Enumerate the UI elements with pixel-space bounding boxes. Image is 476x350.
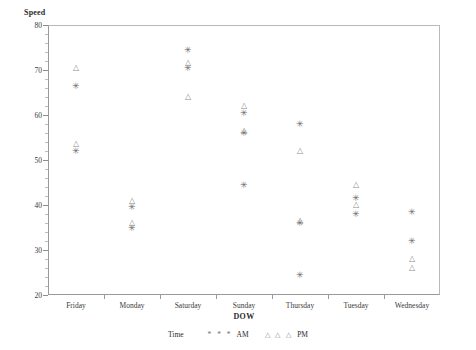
- x-axis-tick: [104, 295, 105, 299]
- y-axis-tick-minor: [45, 268, 48, 269]
- y-axis-tick-minor: [45, 106, 48, 107]
- data-point-pm: △: [409, 264, 415, 272]
- y-axis-tick-label: 80: [35, 21, 43, 30]
- x-axis-tick-label-sunday: Sunday: [233, 301, 256, 310]
- x-axis-tick: [328, 295, 329, 299]
- legend-entry-pm: △ △ △ PM: [265, 330, 308, 339]
- y-axis-tick-minor: [45, 34, 48, 35]
- y-axis-tick-major: [43, 205, 48, 206]
- x-axis-tick-label-saturday: Saturday: [175, 301, 202, 310]
- y-axis-tick-minor: [45, 43, 48, 44]
- legend-entry-am: * * * AM: [208, 330, 249, 339]
- data-point-pm: △: [185, 93, 191, 101]
- y-axis-tick-minor: [45, 286, 48, 287]
- y-axis-tick-label: 30: [35, 246, 43, 255]
- y-axis-tick-minor: [45, 133, 48, 134]
- y-axis-tick-minor: [45, 88, 48, 89]
- y-axis-tick-label: 40: [35, 201, 43, 210]
- plot-area: 20304050607080 FridayMondaySaturdaySunda…: [48, 25, 440, 295]
- x-axis-tick: [384, 295, 385, 299]
- y-axis-title: Speed: [24, 8, 45, 17]
- y-axis-tick-minor: [45, 151, 48, 152]
- x-axis-title: DOW: [48, 312, 440, 321]
- x-axis-tick: [272, 295, 273, 299]
- y-axis-tick-major: [43, 160, 48, 161]
- y-axis-tick-major: [43, 70, 48, 71]
- y-axis-tick-minor: [45, 187, 48, 188]
- x-axis-tick-label-tuesday: Tuesday: [343, 301, 368, 310]
- data-point-pm: △: [297, 217, 303, 225]
- y-axis-tick-label: 70: [35, 66, 43, 75]
- y-axis-tick-major: [43, 25, 48, 26]
- asterisk-icon: * * *: [208, 330, 233, 339]
- y-axis-tick-label: 20: [35, 291, 43, 300]
- data-point-pm: △: [185, 59, 191, 67]
- data-point-am: ✳: [72, 81, 80, 90]
- y-axis-tick-minor: [45, 196, 48, 197]
- y-axis-tick-minor: [45, 97, 48, 98]
- triangle-icon: △ △ △: [265, 331, 294, 339]
- data-point-pm: △: [353, 201, 359, 209]
- y-axis-tick-minor: [45, 277, 48, 278]
- x-axis-tick: [216, 295, 217, 299]
- y-axis-tick-minor: [45, 241, 48, 242]
- data-point-am: ✳: [240, 180, 248, 189]
- legend: Time * * * AM △ △ △ PM: [0, 330, 476, 339]
- y-axis-tick-label: 60: [35, 111, 43, 120]
- x-axis-tick-label-friday: Friday: [66, 301, 86, 310]
- data-point-pm: △: [129, 219, 135, 227]
- y-axis-tick-minor: [45, 223, 48, 224]
- data-point-am: ✳: [408, 207, 416, 216]
- data-point-pm: △: [73, 140, 79, 148]
- data-point-pm: △: [353, 181, 359, 189]
- data-point-am: ✳: [296, 270, 304, 279]
- data-point-pm: △: [297, 147, 303, 155]
- y-axis-tick-major: [43, 250, 48, 251]
- data-point-am: ✳: [184, 45, 192, 54]
- y-axis-tick-major: [43, 295, 48, 296]
- data-point-am: ✳: [352, 210, 360, 219]
- y-axis-tick-minor: [45, 169, 48, 170]
- x-axis-tick-label-wednesday: Wednesday: [395, 301, 429, 310]
- data-point-pm: △: [409, 255, 415, 263]
- x-axis-tick-label-monday: Monday: [120, 301, 145, 310]
- legend-title: Time: [168, 330, 184, 339]
- x-axis-tick: [160, 295, 161, 299]
- y-axis-tick-minor: [45, 259, 48, 260]
- legend-label-pm: PM: [297, 330, 308, 339]
- y-axis-tick-major: [43, 115, 48, 116]
- data-point-pm: △: [129, 197, 135, 205]
- y-axis-tick-minor: [45, 142, 48, 143]
- data-point-am: ✳: [408, 237, 416, 246]
- data-point-pm: △: [241, 127, 247, 135]
- x-axis-tick-label-thursday: Thursday: [286, 301, 314, 310]
- y-axis-tick-minor: [45, 79, 48, 80]
- y-axis-tick-minor: [45, 232, 48, 233]
- legend-label-am: AM: [237, 330, 249, 339]
- data-point-am: ✳: [296, 120, 304, 129]
- scatter-plot-figure: Speed 20304050607080 FridayMondaySaturda…: [0, 0, 476, 350]
- y-axis-tick-minor: [45, 61, 48, 62]
- y-axis-tick-minor: [45, 52, 48, 53]
- y-axis-tick-minor: [45, 178, 48, 179]
- y-axis-tick-minor: [45, 124, 48, 125]
- data-point-pm: △: [73, 64, 79, 72]
- y-axis-tick-label: 50: [35, 156, 43, 165]
- y-axis-tick-minor: [45, 214, 48, 215]
- data-point-pm: △: [241, 102, 247, 110]
